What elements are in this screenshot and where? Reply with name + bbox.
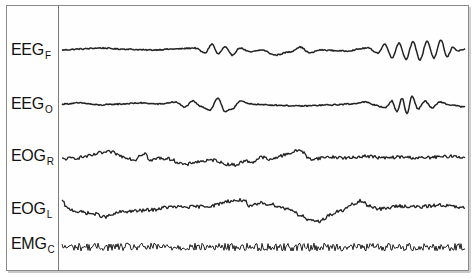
trace-eeg-frontal [62,40,465,60]
signal-traces [0,0,474,279]
trace-eog-right [62,150,465,167]
trace-emg-chin [62,243,465,251]
trace-eog-left [62,199,465,223]
trace-eeg-occipital [62,96,465,114]
